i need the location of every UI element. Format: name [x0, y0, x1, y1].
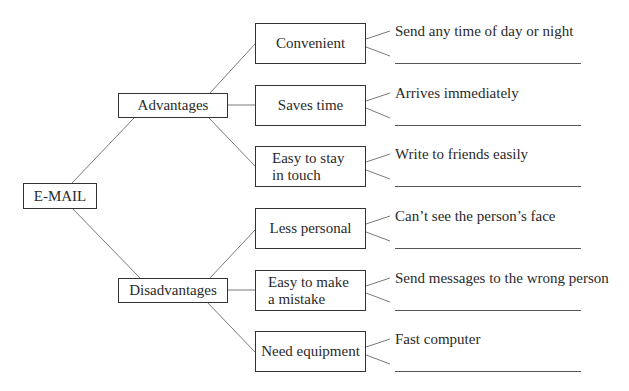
blank-answer-line[interactable]: [395, 63, 581, 64]
example-text: Send any time of day or night: [395, 23, 573, 40]
branch-label: Disadvantages: [129, 282, 216, 299]
item-label-line-2: in touch: [272, 167, 345, 184]
branch-label: Advantages: [138, 97, 209, 114]
example-text: Send messages to the wrong person: [395, 270, 609, 287]
item-label-line-2: a mistake: [268, 291, 349, 308]
example-text: Can’t see the person’s face: [395, 208, 556, 225]
item-label: Less personal: [269, 220, 351, 237]
blank-answer-line[interactable]: [395, 248, 581, 249]
blank-answer-line[interactable]: [395, 186, 581, 187]
item-label: Saves time: [278, 97, 343, 114]
item-label: Convenient: [276, 35, 345, 52]
item-node-easy-to-make-a-mistake: Easy to make a mistake: [255, 270, 366, 311]
root-label: E-MAIL: [34, 188, 87, 205]
branch-node-disadvantages: Disadvantages: [118, 278, 228, 303]
blank-answer-line[interactable]: [395, 310, 581, 311]
example-text: Arrives immediately: [395, 85, 519, 102]
item-node-saves-time: Saves time: [255, 85, 366, 126]
example-text: Write to friends easily: [395, 146, 528, 163]
item-label-line-1: Easy to make: [268, 274, 349, 291]
item-label-line-1: Easy to stay: [272, 150, 345, 167]
branch-node-advantages: Advantages: [118, 93, 228, 118]
blank-answer-line[interactable]: [395, 125, 581, 126]
example-text: Fast computer: [395, 331, 480, 348]
item-label: Need equipment: [261, 343, 360, 360]
root-node-email: E-MAIL: [23, 183, 97, 209]
blank-answer-line[interactable]: [395, 371, 581, 372]
item-node-convenient: Convenient: [255, 23, 366, 64]
item-node-less-personal: Less personal: [255, 208, 366, 249]
item-node-need-equipment: Need equipment: [255, 331, 366, 372]
item-node-easy-to-stay-in-touch: Easy to stay in touch: [255, 146, 366, 187]
